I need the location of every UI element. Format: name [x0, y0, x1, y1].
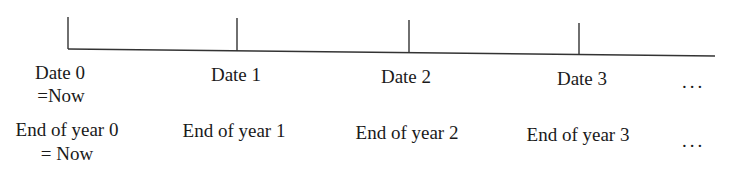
- date-label-1: Date 1: [211, 64, 261, 86]
- date-note-0: =Now: [37, 85, 85, 107]
- year-label-0: End of year 0: [16, 119, 119, 141]
- date-label-0: Date 0: [35, 62, 85, 84]
- year-label-2: End of year 2: [356, 122, 459, 144]
- continuation-ellipsis-2: ...: [682, 130, 705, 152]
- date-label-2: Date 2: [381, 66, 431, 88]
- year-note-0: = Now: [41, 143, 93, 165]
- date-label-3: Date 3: [557, 68, 607, 90]
- year-label-1: End of year 1: [183, 120, 286, 142]
- timeline-axis: [0, 0, 730, 178]
- year-label-3: End of year 3: [527, 124, 630, 146]
- axis-line: [68, 49, 715, 56]
- continuation-ellipsis-1: ...: [682, 71, 705, 93]
